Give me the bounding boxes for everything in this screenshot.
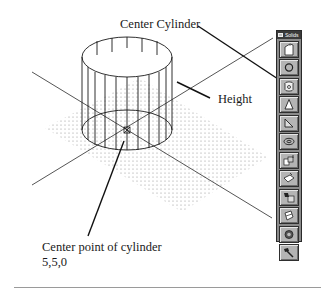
wedge-button[interactable] (279, 115, 299, 132)
cylinder-button[interactable] (279, 78, 299, 95)
section-button[interactable] (279, 207, 299, 224)
revolve-icon (282, 172, 296, 185)
setup-icon (282, 246, 296, 259)
extrude-icon (282, 154, 296, 167)
center-cylinder-label: Center Cylinder (120, 17, 200, 32)
wedge-icon (282, 117, 296, 130)
cone-icon (282, 98, 296, 111)
interference-icon (282, 228, 296, 241)
sphere-button[interactable] (279, 59, 299, 76)
box-icon (282, 43, 296, 56)
revolve-button[interactable] (279, 170, 299, 187)
torus-icon (282, 135, 296, 148)
extrude-button[interactable] (279, 152, 299, 169)
slice-button[interactable] (279, 189, 299, 206)
torus-button[interactable] (279, 133, 299, 150)
center-coordinates-label: 5,5,0 (42, 255, 67, 270)
toolbar-close-icon[interactable] (278, 33, 283, 37)
slice-icon (282, 191, 296, 204)
toolbar-title: Solids (285, 32, 299, 38)
setup-button[interactable] (279, 244, 299, 261)
cylinder-icon (282, 80, 296, 93)
center-point-label: Center point of cylinder (42, 240, 162, 255)
height-label: Height (218, 92, 252, 107)
box-button[interactable] (279, 41, 299, 58)
cone-button[interactable] (279, 96, 299, 113)
interference-button[interactable] (279, 226, 299, 243)
sphere-icon (282, 61, 296, 74)
toolbar-title-bar[interactable]: Solids (277, 31, 301, 39)
bottom-rule (14, 287, 321, 288)
solids-toolbar: Solids (276, 30, 302, 242)
section-icon (282, 209, 296, 222)
